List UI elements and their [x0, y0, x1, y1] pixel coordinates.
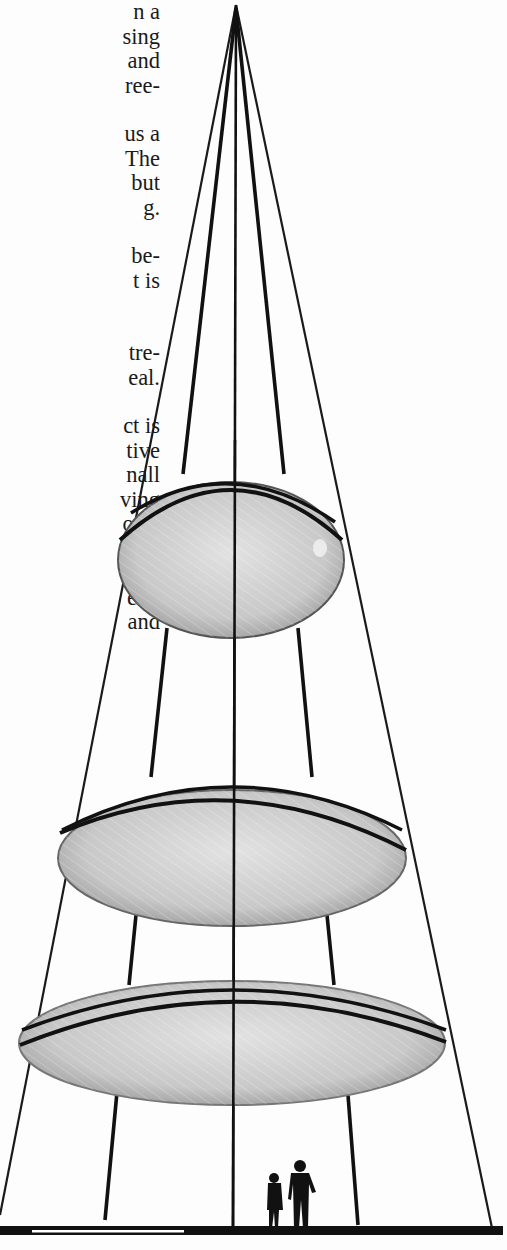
tower-illustration — [0, 0, 507, 1250]
ground-slab — [0, 1226, 503, 1235]
top-disc — [118, 482, 344, 638]
middle-disc — [58, 787, 406, 926]
woman-silhouette — [267, 1173, 283, 1228]
middle-hangers — [151, 628, 312, 777]
document-page: n a sing and ree- us a The but g. be- t … — [0, 0, 507, 1250]
people-silhouettes — [267, 1160, 316, 1228]
man-silhouette — [288, 1160, 316, 1228]
ground-hangers — [105, 1092, 358, 1225]
upper-hangers — [183, 8, 284, 474]
